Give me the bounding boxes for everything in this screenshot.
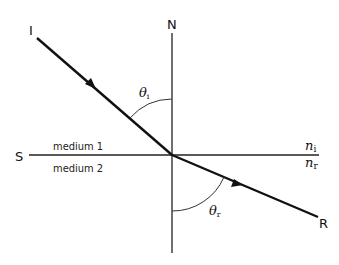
label-medium-1: medium 1 xyxy=(53,140,103,153)
refracted-ray xyxy=(172,155,318,217)
label-theta-i: θi xyxy=(139,85,150,101)
theta-i-arc xyxy=(130,99,172,118)
label-R: R xyxy=(319,216,328,231)
diagram-canvas: I N S R medium 1 medium 2 ni nr θi θr xyxy=(0,0,339,265)
label-n-r: nr xyxy=(305,155,318,171)
refraction-diagram: I N S R medium 1 medium 2 ni nr θi θr xyxy=(0,0,339,265)
label-I: I xyxy=(29,23,33,38)
label-medium-2: medium 2 xyxy=(53,162,103,175)
label-n-i: ni xyxy=(305,138,316,154)
incident-ray xyxy=(37,38,172,155)
label-S: S xyxy=(15,149,23,164)
label-N: N xyxy=(167,17,177,32)
label-theta-r: θr xyxy=(209,203,221,219)
